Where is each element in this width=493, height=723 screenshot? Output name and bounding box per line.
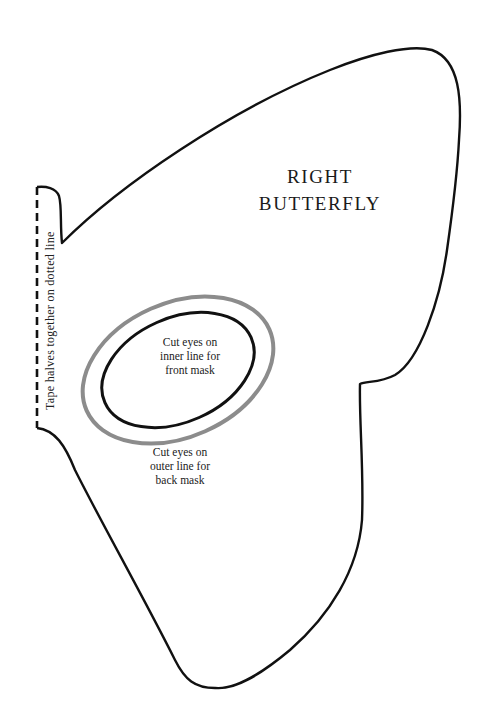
outer-note-line-2: outer line for: [130, 459, 230, 473]
butterfly-wing-outline-icon: [37, 48, 460, 688]
inner-eye-instruction: Cut eyes on inner line for front mask: [140, 335, 240, 377]
inner-note-line-1: Cut eyes on: [140, 335, 240, 349]
outer-note-line-3: back mask: [130, 473, 230, 487]
mask-template-page: RIGHT BUTTERFLY Cut eyes on inner line f…: [0, 0, 493, 723]
title-line-1: RIGHT: [250, 163, 390, 190]
mask-outline-drawing: [0, 0, 493, 723]
outer-eye-instruction: Cut eyes on outer line for back mask: [130, 445, 230, 487]
outer-note-line-1: Cut eyes on: [130, 445, 230, 459]
fold-line-instruction: Tape halves together on dotted line: [43, 231, 58, 410]
mask-title: RIGHT BUTTERFLY: [250, 163, 390, 217]
inner-note-line-2: inner line for: [140, 349, 240, 363]
title-line-2: BUTTERFLY: [250, 190, 390, 217]
inner-note-line-3: front mask: [140, 363, 240, 377]
